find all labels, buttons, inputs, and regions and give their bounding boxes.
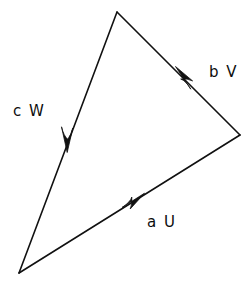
vector-triangle-svg	[0, 0, 251, 286]
vector-label-aU: a U	[147, 215, 176, 230]
vector-label-cW: c W	[13, 104, 45, 119]
figure-background	[0, 0, 251, 286]
vector-label-bV: b V	[209, 65, 238, 80]
vector-diagram-figure: c W b V a U	[0, 0, 251, 286]
